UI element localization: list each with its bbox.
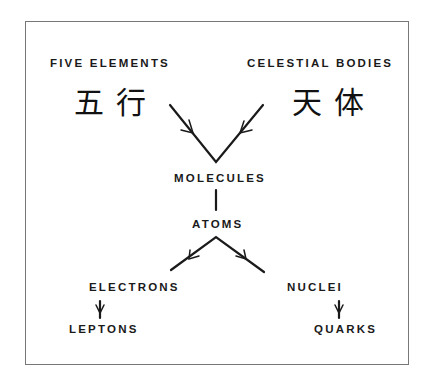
connector-lines — [0, 0, 433, 392]
edge-elements-bodies-to-molecules — [170, 105, 263, 162]
edge-atoms-to-electrons-nuclei — [171, 237, 264, 272]
